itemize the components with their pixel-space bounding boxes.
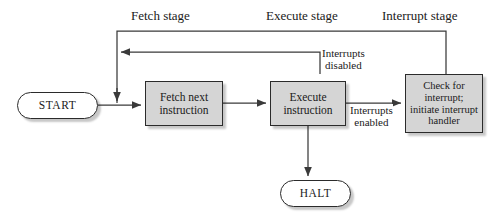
node-interrupt-text: Check for interrupt; initiate interrupt … (408, 80, 480, 127)
stage-label-interrupt: Interrupt stage (382, 8, 457, 24)
node-interrupt-line1: Check for (423, 80, 465, 91)
node-fetch-line2: instruction (159, 104, 208, 116)
node-halt: HALT (280, 180, 351, 207)
stage-label-fetch: Fetch stage (131, 8, 190, 24)
node-fetch-text: Fetch next instruction (157, 91, 210, 117)
node-execute-line2: instruction (283, 104, 332, 116)
edge-label-interrupts-enabled: Interrupts enabled (350, 104, 393, 129)
node-start-label: START (37, 99, 78, 112)
edge-label-interrupts-enabled-line2: enabled (354, 116, 388, 128)
node-execute-text: Execute instruction (281, 91, 334, 117)
node-start: START (17, 92, 98, 119)
edge-label-interrupts-disabled: Interrupts disabled (322, 47, 365, 72)
stage-label-execute: Execute stage (266, 8, 338, 24)
node-check-for-interrupt: Check for interrupt; initiate interrupt … (405, 74, 483, 133)
node-fetch-next-instruction: Fetch next instruction (145, 81, 223, 126)
node-halt-label: HALT (298, 187, 334, 200)
node-interrupt-line3: initiate interrupt (410, 104, 478, 115)
edge-label-interrupts-disabled-line1: Interrupts (322, 47, 365, 59)
node-interrupt-line2: interrupt; (424, 92, 463, 103)
edge-label-interrupts-enabled-line1: Interrupts (350, 104, 393, 116)
node-execute-line1: Execute (289, 91, 326, 103)
edge-label-interrupts-disabled-line2: disabled (325, 59, 362, 71)
node-execute-instruction: Execute instruction (270, 81, 346, 126)
instruction-cycle-diagram: Fetch stage Execute stage Interrupt stag… (0, 0, 501, 216)
node-fetch-line1: Fetch next (160, 91, 208, 103)
wire-execute-feedback (121, 52, 320, 74)
node-interrupt-line4: handler (428, 115, 460, 126)
